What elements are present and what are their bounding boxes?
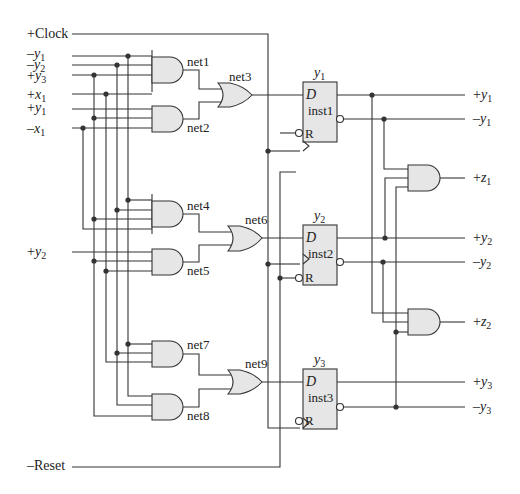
sub: 1 bbox=[486, 176, 491, 187]
sub: 1 bbox=[320, 71, 325, 82]
input-label-clock: +Clock bbox=[27, 27, 68, 41]
and-gate-net4 bbox=[152, 194, 183, 234]
output-label-neg-y1: –y1 bbox=[473, 112, 491, 126]
sign: – bbox=[473, 111, 480, 126]
name: Reset bbox=[34, 458, 65, 473]
sign: + bbox=[27, 100, 35, 115]
ff1-r-label: R bbox=[305, 127, 314, 140]
sign: + bbox=[473, 170, 481, 185]
ff1-d-label: D bbox=[306, 88, 316, 102]
or-gate-net6 bbox=[228, 226, 262, 251]
sign: + bbox=[473, 374, 481, 389]
sign: – bbox=[473, 254, 480, 269]
sub: 2 bbox=[486, 260, 491, 271]
and-gate-net2 bbox=[152, 106, 183, 132]
net-label-net3: net3 bbox=[229, 70, 251, 83]
ff2-d-label: D bbox=[306, 231, 316, 245]
ff3-title: y3 bbox=[314, 353, 325, 367]
sign: – bbox=[27, 121, 34, 136]
sign: + bbox=[27, 244, 35, 259]
sub: 3 bbox=[41, 74, 46, 85]
input-wires-top bbox=[72, 56, 152, 252]
net-label-net6: net6 bbox=[245, 213, 267, 226]
sub: 1 bbox=[40, 127, 45, 138]
sub: 1 bbox=[41, 106, 46, 117]
ff3-d-label: D bbox=[306, 375, 316, 389]
sub: 2 bbox=[487, 236, 492, 247]
output-label-neg-y2: –y2 bbox=[473, 255, 491, 269]
sign: + bbox=[27, 68, 35, 83]
name: Clock bbox=[35, 26, 68, 41]
net-label-net4: net4 bbox=[187, 199, 209, 212]
ff2-name: inst2 bbox=[308, 247, 333, 260]
sign: – bbox=[473, 399, 480, 414]
output-label-pos-z2: +z2 bbox=[473, 315, 491, 329]
output-label-pos-z1: +z1 bbox=[473, 171, 491, 185]
net-label-net9: net9 bbox=[245, 357, 267, 370]
output-label-pos-y3: +y3 bbox=[473, 375, 492, 389]
and-gate-net1 bbox=[152, 50, 183, 92]
ff2-title: y2 bbox=[314, 209, 325, 223]
sign: + bbox=[473, 230, 481, 245]
ff2-r-label: R bbox=[305, 271, 314, 284]
ff3-r-label: R bbox=[305, 414, 314, 427]
sub: 2 bbox=[320, 214, 325, 225]
output-wires bbox=[337, 92, 465, 409]
net-label-net1: net1 bbox=[187, 55, 209, 68]
sub: 3 bbox=[487, 380, 492, 391]
sub: 3 bbox=[486, 405, 491, 416]
schematic-svg bbox=[0, 0, 520, 494]
or-gate-net3 bbox=[218, 83, 252, 107]
input-label-pos-y2: +y2 bbox=[27, 245, 46, 259]
sign: + bbox=[27, 26, 35, 41]
input-label-reset: –Reset bbox=[27, 459, 65, 473]
output-label-pos-y1: +y1 bbox=[473, 88, 492, 102]
sub: 2 bbox=[486, 320, 491, 331]
sign: + bbox=[473, 314, 481, 329]
sign: + bbox=[473, 87, 481, 102]
bus-verticals bbox=[80, 53, 152, 416]
ff3-name: inst3 bbox=[308, 391, 333, 404]
input-label-pos-y1: +y1 bbox=[27, 101, 46, 115]
or-gate-net9 bbox=[228, 370, 262, 394]
sub: 3 bbox=[320, 358, 325, 369]
sign: – bbox=[27, 458, 34, 473]
sub: 1 bbox=[487, 93, 492, 104]
sub: 2 bbox=[41, 250, 46, 261]
output-label-neg-y3: –y3 bbox=[473, 400, 491, 414]
and-gate-z2 bbox=[408, 309, 440, 335]
circuit-diagram: +Clock –Reset –y1 –y2 +y3 +x1 +y1 –x1 +y… bbox=[0, 0, 520, 494]
net-label-net5: net5 bbox=[187, 264, 209, 277]
and-gate-net8 bbox=[152, 394, 183, 420]
net-label-net7: net7 bbox=[187, 338, 209, 351]
ff1-name: inst1 bbox=[308, 104, 333, 117]
input-label-pos-y3: +y3 bbox=[27, 69, 46, 83]
input-label-neg-x1: –x1 bbox=[27, 122, 45, 136]
sub: 1 bbox=[486, 117, 491, 128]
and-gate-net7 bbox=[152, 341, 183, 367]
output-label-pos-y2: +y2 bbox=[473, 231, 492, 245]
ff1-title: y1 bbox=[314, 66, 325, 80]
and-gate-z1 bbox=[408, 165, 440, 191]
net-label-net8: net8 bbox=[187, 409, 209, 422]
net-label-net2: net2 bbox=[187, 121, 209, 134]
and-gate-net5 bbox=[152, 249, 183, 275]
